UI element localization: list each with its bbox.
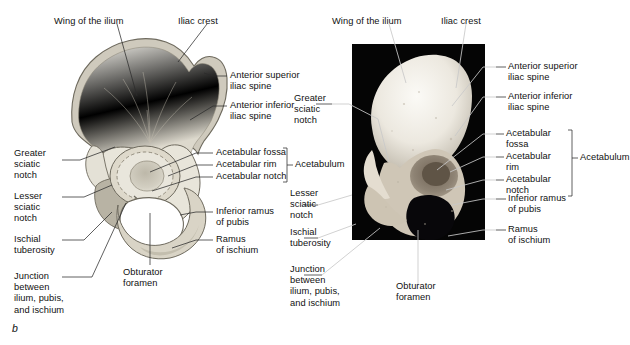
label-ischial-tuberosity-photograph: Ischial tuberosity [290, 227, 331, 249]
hip-bone-illustration [72, 39, 227, 259]
label-iliac-crest-photograph: Iliac crest [441, 16, 481, 27]
label-inferior-ramus-of-pubis-illustration: Inferior ramus of pubis [216, 206, 274, 228]
label-acetabulum-illustration: Acetabulum [295, 159, 345, 170]
label-lesser-sciatic-notch-photograph: Lesser sciatic notch [290, 188, 318, 222]
label-wing-of-ilium-illustration: Wing of the ilium [54, 16, 124, 27]
label-wing-of-ilium-photograph: Wing of the ilium [332, 16, 402, 27]
label-iliac-crest-illustration: Iliac crest [178, 16, 218, 27]
photograph-acetabulum-bracket [568, 130, 578, 196]
label-junction-photograph: Junction between ilium, pubis, and ischi… [290, 264, 340, 309]
label-lesser-sciatic-notch-illustration: Lesser sciatic notch [14, 191, 42, 225]
label-greater-sciatic-notch-illustration: Greater sciatic notch [14, 148, 46, 182]
label-inferior-ramus-of-pubis-photograph: Inferior ramus of pubis [508, 193, 566, 215]
label-anterior-superior-iliac-spine-photograph: Anterior superior iliac spine [508, 61, 578, 83]
label-anterior-inferior-iliac-spine-illustration: Anterior inferior iliac spine [230, 100, 294, 122]
label-ischial-tuberosity-illustration: Ischial tuberosity [14, 234, 55, 256]
label-acetabular-rim-illustration: Acetabular rim [216, 159, 277, 170]
label-acetabular-notch-illustration: Acetabular notch [216, 171, 287, 182]
label-junction-illustration: Junction between ilium, pubis, and ischi… [14, 271, 64, 316]
label-acetabular-fossa-photograph: Acetabular fossa [506, 128, 551, 150]
label-obturator-foramen-photograph: Obturator foramen [396, 281, 436, 303]
photograph-panel [352, 44, 485, 240]
label-anterior-inferior-iliac-spine-photograph: Anterior inferior iliac spine [508, 91, 572, 113]
label-ramus-of-ischium-photograph: Ramus of ischium [508, 224, 550, 246]
label-acetabular-rim-photograph: Acetabular rim [506, 151, 551, 173]
label-obturator-foramen-illustration: Obturator foramen [123, 267, 163, 289]
label-acetabulum-photograph: Acetabulum [580, 152, 630, 163]
label-anterior-superior-iliac-spine-illustration: Anterior superior iliac spine [230, 70, 300, 92]
anatomy-figure: Wing of the ilium Iliac crest Anterior s… [0, 0, 630, 345]
label-greater-sciatic-notch-photograph: Greater sciatic notch [294, 93, 326, 127]
panel-letter-b: b [12, 322, 18, 334]
label-acetabular-fossa-illustration: Acetabular fossa [216, 147, 286, 158]
label-ramus-of-ischium-illustration: Ramus of ischium [216, 234, 258, 256]
